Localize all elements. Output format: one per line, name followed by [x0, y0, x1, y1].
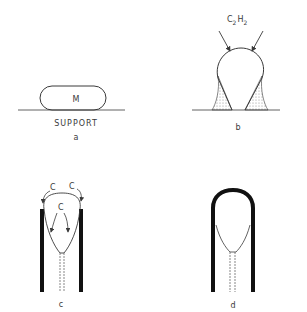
encapsulated-particle — [216, 225, 250, 252]
carbon-label-1: C — [50, 183, 56, 192]
panel-d: d — [213, 190, 253, 310]
panel-label-b: b — [235, 123, 240, 132]
diffusion-arrow-2 — [77, 189, 81, 201]
carbon-deposit-right — [245, 76, 268, 110]
filament-wall-left — [40, 209, 44, 292]
panel-label-d: d — [230, 301, 235, 310]
diffusion-arrow-3 — [51, 213, 57, 232]
panel-c: C C C c — [40, 182, 83, 309]
panel-a: M SUPPORT a — [18, 86, 125, 142]
encapsulating-carbon-shell — [213, 190, 253, 292]
support-label: SUPPORT — [54, 119, 98, 128]
diffusion-arrow-4 — [64, 213, 68, 232]
filament-growth-diagram: M SUPPORT a C2H2 b C C C c — [0, 0, 307, 312]
panel-label-c: c — [59, 300, 63, 309]
filament-wall-right — [79, 209, 83, 292]
gas-formula: C2H2 — [227, 15, 247, 26]
panel-b: C2H2 b — [192, 15, 280, 132]
panel-label-a: a — [74, 133, 79, 142]
catalyst-particle — [44, 193, 81, 253]
gas-arrow-left — [219, 31, 230, 51]
particle-label: M — [73, 95, 80, 104]
carbon-deposit-left — [212, 76, 232, 110]
carbon-label-2: C — [69, 182, 75, 191]
carbon-label-3: C — [58, 203, 64, 212]
gas-arrow-right — [252, 31, 263, 51]
